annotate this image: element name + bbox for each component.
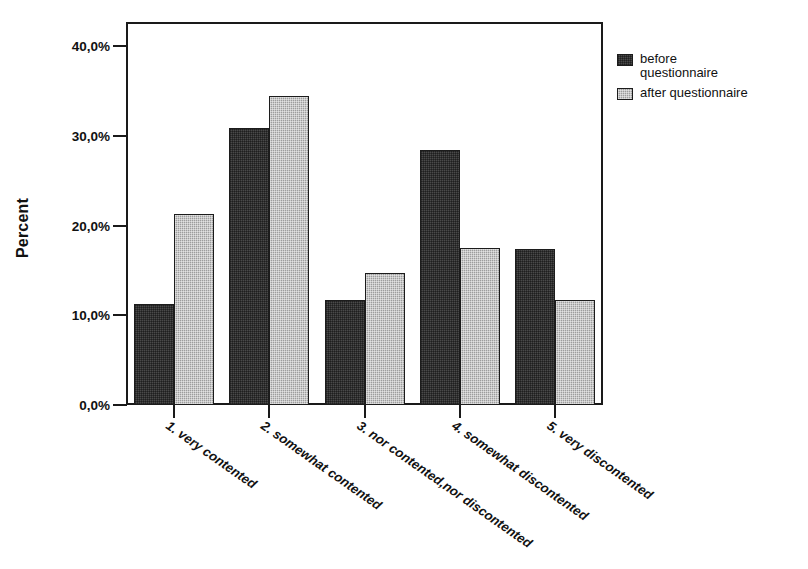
x-axis-tick [364,405,366,418]
x-axis-tick [459,405,461,418]
legend: before questionnaire after questionnaire [617,52,797,106]
legend-label-before: before questionnaire [640,52,718,80]
bar [229,128,269,405]
bar [269,96,309,405]
bar [515,249,555,405]
bar [555,300,595,405]
bar [365,273,405,405]
legend-item[interactable]: after questionnaire [617,86,797,100]
legend-swatch-before [617,54,633,66]
bar [134,304,174,405]
bar [460,248,500,405]
legend-label-after: after questionnaire [640,86,748,100]
bar [325,300,365,405]
x-axis-tick [268,405,270,418]
chart-canvas: Percent 40,0%30,0%20,0%10,0%0,0% 1. very… [0,0,808,569]
legend-item[interactable]: before questionnaire [617,52,797,80]
bar [174,214,214,405]
bar [420,150,460,405]
x-axis-tick [554,405,556,418]
x-axis-tick [173,405,175,418]
legend-swatch-after [617,88,633,100]
